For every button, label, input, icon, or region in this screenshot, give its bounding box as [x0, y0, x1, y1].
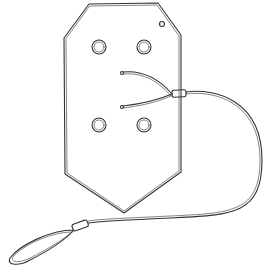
lanyard-cable	[88, 91, 262, 223]
cable-loop	[9, 230, 74, 264]
small-hole	[160, 22, 165, 27]
illustration	[0, 0, 267, 266]
mounting-holes	[92, 40, 151, 132]
wire-leads	[121, 72, 173, 109]
